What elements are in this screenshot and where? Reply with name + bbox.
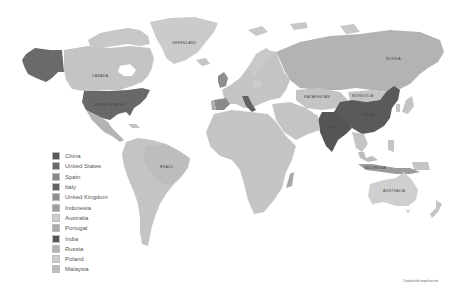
iceland xyxy=(196,58,210,66)
label-united-states: UNITED STATES xyxy=(94,103,125,107)
philippines xyxy=(388,140,394,152)
legend: China United States Spain Italy United K… xyxy=(52,151,108,275)
legend-label: Spain xyxy=(65,174,80,180)
legend-item: Portugal xyxy=(52,223,108,233)
legend-swatch xyxy=(52,162,60,170)
label-brazil: BRAZIL xyxy=(160,165,174,169)
label-russia: RUSSIA xyxy=(386,57,401,61)
legend-item: China xyxy=(52,151,108,161)
southeast-asia xyxy=(352,132,368,152)
legend-swatch xyxy=(52,224,60,232)
united-kingdom xyxy=(218,72,228,88)
legend-item: Indonesia xyxy=(52,202,108,212)
legend-label: Malaysia xyxy=(65,266,89,272)
legend-item: Spain xyxy=(52,172,108,182)
russia xyxy=(276,30,444,92)
legend-label: Portugal xyxy=(65,225,87,231)
label-greenland: GREENLAND xyxy=(172,41,197,45)
label-indonesia: INDONESIA xyxy=(364,166,386,170)
legend-swatch xyxy=(52,204,60,212)
legend-item: Russia xyxy=(52,244,108,254)
legend-swatch xyxy=(52,255,60,263)
legend-swatch xyxy=(52,245,60,253)
legend-label: Russia xyxy=(65,246,83,252)
malaysia xyxy=(358,152,378,162)
legend-label: Australia xyxy=(65,215,88,221)
legend-label: United States xyxy=(65,163,101,169)
papua xyxy=(412,162,430,170)
alaska xyxy=(22,48,64,82)
label-india: INDIA xyxy=(326,125,337,129)
madagascar xyxy=(286,172,294,188)
legend-label: India xyxy=(65,236,78,242)
legend-item: Australia xyxy=(52,213,108,223)
legend-label: United Kingdom xyxy=(65,194,108,200)
canada xyxy=(64,46,154,91)
legend-swatch xyxy=(52,214,60,222)
legend-swatch xyxy=(52,265,60,273)
legend-label: Indonesia xyxy=(65,205,91,211)
new-zealand xyxy=(430,200,442,218)
label-kazakhstan: KAZAKHSTAN xyxy=(304,95,330,99)
legend-label: Italy xyxy=(65,184,76,190)
korea xyxy=(396,104,400,112)
label-mongolia: MONGOLIA xyxy=(352,94,374,98)
legend-label: Poland xyxy=(65,256,84,262)
label-australia: AUSTRALIA xyxy=(383,189,406,193)
legend-swatch xyxy=(52,183,60,191)
legend-item: United Kingdom xyxy=(52,192,108,202)
japan xyxy=(402,96,414,114)
legend-swatch xyxy=(52,193,60,201)
map-credit: Created with mapchart.net xyxy=(403,279,438,283)
legend-item: Poland xyxy=(52,254,108,264)
legend-swatch xyxy=(52,235,60,243)
legend-swatch xyxy=(52,152,60,160)
legend-item: United States xyxy=(52,161,108,171)
label-canada: CANADA xyxy=(92,74,109,78)
legend-item: Italy xyxy=(52,182,108,192)
legend-swatch xyxy=(52,173,60,181)
legend-item: India xyxy=(52,233,108,243)
canadian-arctic-islands xyxy=(88,28,150,48)
label-china: CHINA xyxy=(362,113,375,117)
legend-label: China xyxy=(65,153,81,159)
legend-item: Malaysia xyxy=(52,264,108,274)
